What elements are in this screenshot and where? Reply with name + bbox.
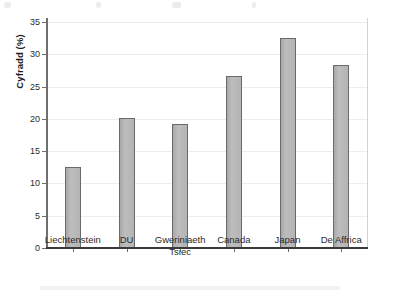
x-tick-label: Japan	[275, 234, 301, 246]
y-tick-label: 5	[35, 211, 40, 221]
y-tick-label: 0	[35, 243, 40, 253]
x-axis-line	[46, 247, 368, 250]
y-tick-label: 25	[30, 82, 40, 92]
scan-artifact	[172, 2, 181, 8]
x-tick-label: Canada	[217, 234, 250, 246]
x-tick-label: GweriniaethTsiec	[155, 234, 206, 258]
x-tick-label: Liechtenstein	[45, 234, 101, 246]
bar	[119, 118, 135, 248]
x-tick-label: DU	[120, 234, 134, 246]
y-tick-label: 20	[30, 114, 40, 124]
y-tick-label: 15	[30, 146, 40, 156]
y-axis-title: Cyfradd (%)	[14, 17, 25, 107]
bar	[280, 38, 296, 248]
x-tick-label: De Affrica	[321, 234, 362, 246]
plot-area: 05101520253035	[46, 22, 368, 248]
y-tick-label: 10	[30, 178, 40, 188]
bar	[226, 76, 242, 248]
scan-artifact	[40, 286, 340, 290]
scan-artifact	[4, 2, 11, 8]
scan-artifact	[252, 2, 256, 8]
scan-artifact	[96, 2, 101, 8]
bars-layer	[46, 22, 368, 248]
y-tick-label: 30	[30, 49, 40, 59]
bar	[172, 124, 188, 248]
y-tick-label: 35	[30, 17, 40, 27]
bar	[333, 65, 349, 248]
bar-chart: Cyfradd (%) 05101520253035 Liechtenstein…	[0, 0, 394, 292]
